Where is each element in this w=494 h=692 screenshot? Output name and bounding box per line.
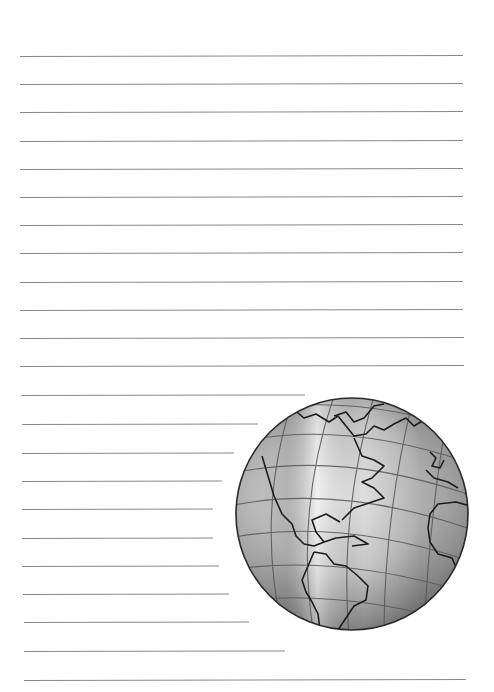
- ruled-line: [20, 365, 464, 367]
- ruled-line: [20, 111, 463, 113]
- ruled-line: [22, 453, 234, 454]
- ruled-line: [22, 509, 213, 510]
- ruled-line: [20, 196, 463, 198]
- globe-illustration: [234, 396, 470, 632]
- ruled-line: [24, 650, 285, 652]
- ruled-line: [20, 83, 463, 85]
- ruled-line: [24, 679, 466, 681]
- ruled-line: [23, 594, 229, 595]
- ruled-line: [22, 481, 222, 482]
- ruled-line: [22, 538, 213, 539]
- ruled-line: [20, 224, 463, 226]
- ruled-line: [22, 566, 219, 567]
- ruled-line: [20, 140, 463, 142]
- lined-paper: [0, 0, 494, 692]
- ruled-line: [20, 168, 463, 170]
- ruled-line: [24, 622, 249, 623]
- ruled-line: [20, 55, 463, 57]
- ruled-line: [20, 281, 463, 283]
- ruled-line: [22, 424, 258, 425]
- ruled-line: [20, 337, 464, 339]
- ruled-line: [20, 309, 463, 311]
- ruled-line: [20, 252, 463, 254]
